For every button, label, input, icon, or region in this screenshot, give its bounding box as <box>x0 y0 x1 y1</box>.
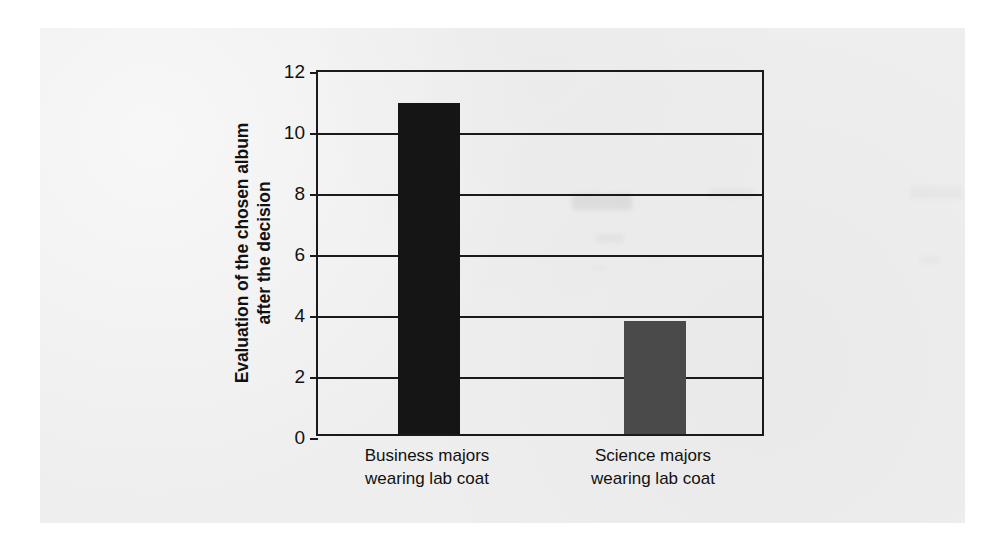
gridline <box>318 255 762 257</box>
y-axis-tick-label: 4 <box>294 305 305 327</box>
gridline <box>318 316 762 318</box>
x-axis-category-label-line-1: Science majors <box>595 446 711 467</box>
x-axis-category-label: Business majorswearing lab coat <box>317 446 537 489</box>
y-axis-tick-label: 10 <box>284 122 305 144</box>
y-axis-title-line-1: Evaluation of the chosen album <box>232 123 252 384</box>
y-axis-tick-mark <box>310 72 318 74</box>
y-axis-tick-mark <box>310 255 318 257</box>
y-axis-tick-label: 12 <box>284 61 305 83</box>
y-axis-title-line-2: after the decision <box>254 181 274 324</box>
bar-chart-figure: Evaluation of the chosen album after the… <box>0 0 996 545</box>
gridline <box>318 194 762 196</box>
bar <box>398 103 460 434</box>
x-axis-category-label-line-2: wearing lab coat <box>365 469 489 490</box>
y-axis-tick-label: 6 <box>294 244 305 266</box>
x-axis-category-label: Science majorswearing lab coat <box>543 446 763 489</box>
bar <box>624 321 686 434</box>
y-axis-tick-label: 0 <box>294 427 305 449</box>
plot-area: 121086420 <box>316 70 764 436</box>
y-axis-tick-mark <box>310 438 318 440</box>
y-axis-tick-mark <box>310 377 318 379</box>
x-axis-category-label-line-2: wearing lab coat <box>591 469 715 490</box>
gridline <box>318 377 762 379</box>
y-axis-tick-label: 2 <box>294 366 305 388</box>
y-axis-tick-mark <box>310 194 318 196</box>
x-axis-category-label-line-1: Business majors <box>365 446 490 467</box>
y-axis-title: Evaluation of the chosen album after the… <box>222 70 284 436</box>
y-axis-tick-label: 8 <box>294 183 305 205</box>
y-axis-tick-mark <box>310 316 318 318</box>
screenshot-root: Evaluation of the chosen album after the… <box>0 0 996 545</box>
gridline <box>318 133 762 135</box>
y-axis-tick-mark <box>310 133 318 135</box>
